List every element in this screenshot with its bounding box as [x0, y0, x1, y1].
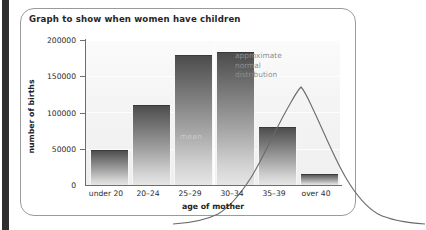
x-tick-label-over-40: over 40 [276, 189, 356, 198]
annotation-line-3: distribution [235, 70, 282, 80]
y-tick-label-200000: 200000 [47, 36, 76, 45]
gridline-200000 [86, 40, 340, 41]
bar-25-29 [174, 55, 213, 186]
bar-over-40 [300, 174, 339, 185]
mean-marker-line [213, 45, 215, 185]
bar-20-24 [132, 105, 171, 185]
mean-annotation-label: mean [180, 132, 202, 141]
y-tick-label-100000: 100000 [47, 109, 76, 118]
normal-distribution-annotation: approximate normal distribution [235, 51, 282, 80]
y-tick-label-50000: 50000 [52, 145, 76, 154]
bar-under-20 [90, 150, 129, 185]
y-tick-mark-200000 [80, 40, 85, 41]
plot-area: mean approximate normal distribution [86, 40, 340, 185]
chart-title: Graph to show when women have children [29, 14, 241, 24]
annotation-line-2: normal [235, 61, 282, 71]
annotation-line-1: approximate [235, 51, 282, 61]
bar-35-39 [258, 127, 297, 185]
y-tick-label-150000: 150000 [47, 72, 76, 81]
y-tick-mark-50000 [80, 149, 85, 150]
y-tick-mark-100000 [80, 113, 85, 114]
page-gutter-strip [2, 0, 9, 230]
x-axis-title: age of mother [86, 202, 340, 211]
y-tick-mark-150000 [80, 76, 85, 77]
y-axis-title: number of births [27, 72, 36, 162]
y-axis-line [85, 39, 86, 186]
x-axis-line [85, 185, 342, 186]
